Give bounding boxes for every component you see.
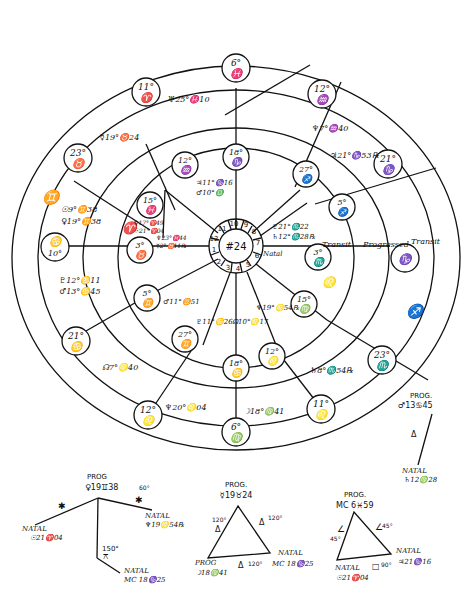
sun-prog-position: ☉9°♊38 [61, 204, 97, 214]
neptune-outer-a: ♆7°♒40 [312, 123, 348, 133]
trine-icon: Δ [238, 561, 244, 570]
natal-title: NATAL [123, 567, 149, 575]
cusp-deg: 27° [298, 165, 313, 174]
icusp-27-sagittarius: 27° ♐ [293, 161, 319, 187]
neptune-outer: ♆20°♌04 [165, 402, 207, 412]
cusp-21-cancer: 21° ♋ [62, 327, 90, 355]
icusp-12-leo: 12° ♌ [259, 343, 285, 369]
cusp-deg: 3° [313, 248, 322, 257]
aspect-trine-triangle: PROG. ☿19♉24 120° Δ Δ 120° Δ 120° PROG ☽… [194, 481, 314, 577]
label-transit-inner: Transit [322, 240, 352, 249]
leo-marker: ♌ [322, 276, 338, 289]
house-8: 8 [252, 228, 256, 236]
aspect-title: PROG [87, 473, 107, 481]
trine-icon: Δ [259, 518, 265, 527]
aspect-planet: ♀19♊38 [85, 483, 118, 492]
icusp-12-aquarius: 12° ♒ [172, 152, 198, 178]
trine-symbol: Δ [411, 430, 417, 439]
aspect-planet: ♂13♋45 [398, 401, 433, 410]
mars-inner: ♂11°♊51 [163, 297, 200, 306]
sextile-icon: ✱ [135, 495, 143, 505]
jupiter-inner: ♃11°♑16 [196, 178, 233, 187]
saturn-inner-right: ♄12°♏28℞ [272, 232, 316, 241]
label-transit-outer: Transit [411, 237, 441, 246]
house-4: 4 [236, 265, 241, 273]
venus-prog-position: ♀19°♊38 [61, 216, 101, 226]
house-2: 2 [217, 258, 221, 266]
cusp-23-scorpio: 23° ♏ [368, 346, 396, 374]
icusp-18-cancer: 18° ♋ [223, 355, 249, 381]
cusp-deg: 3° [135, 241, 144, 250]
house-10: 10 [230, 220, 239, 228]
cusp-sign: ♑ [398, 253, 414, 266]
cusp-23-taurus: 23° ♉ [64, 144, 92, 172]
natal-planet: MC 18♑25 [123, 575, 166, 584]
moon-outer: ☽18°♍41 [243, 406, 284, 416]
natal-title: NATAL [144, 512, 170, 520]
cusp-deg: 11° [313, 399, 329, 409]
cusp-deg: 23° [373, 350, 390, 360]
cusp-11-aries: 11° ♈ [132, 78, 160, 106]
semisquare-icon: ∠ [337, 524, 345, 534]
cusp-deg: 5° [337, 198, 346, 207]
trine-label: 120° [212, 516, 226, 523]
mercury-prog-position: ☿19°♉24 [100, 132, 139, 142]
icusp-27-gemini: 27° ♊ [172, 326, 198, 352]
semisquare-label: 45° [330, 535, 341, 542]
saturn-outer: ♄8°♏54℞ [310, 365, 354, 375]
square-label: 90° [381, 561, 392, 568]
aspect-planet: MC 6♓59 [336, 501, 373, 510]
aspect-planet: ☿19♉24 [220, 491, 252, 500]
cusp-deg: 27° [177, 330, 192, 339]
neptune-inner-b: ♆19°♌54℞ [256, 303, 300, 312]
square-icon: □ [372, 562, 380, 571]
cusp-deg: 12° [314, 84, 330, 94]
mars-outer: ♂13°♋45 [59, 286, 101, 296]
cusp-deg: 18° [229, 148, 243, 157]
cusp-deg: 15° [297, 295, 311, 304]
cusp-deg: 6° [231, 422, 241, 432]
jupiter-outer: ♃21°♑53℞ [330, 150, 380, 160]
natal-planet: ☉21♈04 [30, 533, 63, 542]
aspect-title: NATAL [395, 547, 421, 555]
node-outer: ☊7°♌40 [102, 362, 138, 372]
aspect-natal-title: NATAL [401, 467, 427, 475]
venus-inner: ♀17°♈49 [134, 219, 164, 227]
aspect-title: PROG [194, 559, 217, 567]
cusp-deg: 18° [229, 359, 243, 368]
cusp-deg: 12° [265, 347, 279, 356]
cusp-6-pisces: 6° ♓ [222, 54, 250, 82]
house-7: 7 [256, 239, 260, 247]
house-1: 1 [212, 246, 216, 254]
aspect-venus-group: PROG ♀19♊38 ✱ 60° ✱ 150° ⚻ NATAL ☉21♈04 … [21, 473, 185, 584]
neptune-inner: ♆23°♓44 [156, 234, 187, 242]
gemini-marker: ♊ [42, 189, 62, 206]
uranus-position: ♅25°♓10 [168, 94, 210, 104]
aspect-planet: ☉21♈04 [336, 573, 369, 582]
semisquare-label: 45° [382, 522, 393, 529]
cusp-11-leo: 11° ♌ [307, 395, 335, 423]
icusp-18-capricorn: 18° ♑ [223, 144, 249, 170]
aspect-title: NATAL [277, 549, 303, 557]
cusp-deg: 5° [142, 289, 151, 298]
house-11: 11 [218, 225, 227, 233]
mars-inner-top: ♂10°♎ [196, 188, 225, 197]
icusp-5-gemini: 5° ♊ [134, 285, 160, 311]
aspect-title: NATAL [334, 564, 360, 572]
natal-planet: ♆19♌54℞ [145, 520, 185, 529]
house-12: 12 [210, 235, 219, 243]
house-9: 9 [244, 221, 248, 229]
natal-title: NATAL [21, 525, 47, 533]
aspect-title: PROG. [344, 491, 366, 499]
aspect-prog-mars: PROG. ♂13♋45 Δ NATAL ♄12♍28 [398, 392, 438, 484]
sextile-label: 60° [139, 484, 150, 491]
cusp-deg: 11° [138, 82, 154, 92]
cusp-deg: 15° [143, 196, 157, 205]
center-label: #24 [225, 241, 246, 252]
sextile-icon: ✱ [58, 501, 66, 511]
aspect-planet: ♃21♑16 [398, 557, 432, 566]
cusp-10-cancer: ♋ 10° [41, 233, 69, 261]
cusp-12-aquarius: 12° ♒ [308, 80, 336, 108]
trine-label: 120° [248, 560, 262, 567]
aspect-planet: ☽18♍41 [195, 568, 228, 577]
